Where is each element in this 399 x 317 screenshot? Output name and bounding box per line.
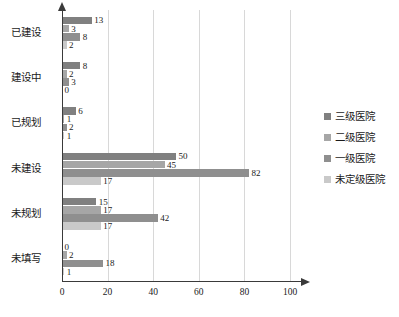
bar-value-label: 82 bbox=[249, 168, 261, 177]
category-label: 未填写 bbox=[0, 253, 54, 264]
bar-row: 1 bbox=[62, 268, 290, 276]
bar-row: 6 bbox=[62, 107, 290, 115]
bar-row: 3 bbox=[62, 25, 290, 33]
bar bbox=[62, 17, 92, 25]
bar-value-label: 3 bbox=[69, 78, 76, 87]
y-axis-line bbox=[62, 10, 63, 282]
legend-swatch-icon bbox=[324, 113, 331, 120]
bar-group: 13382 bbox=[62, 17, 290, 50]
chart-legend: 三级医院二级医院一级医院未定级医院 bbox=[324, 106, 385, 190]
bar-value-label: 6 bbox=[76, 107, 83, 116]
bar-row: 1 bbox=[62, 115, 290, 123]
y-axis-arrowhead bbox=[58, 2, 66, 11]
bar-value-label: 45 bbox=[165, 160, 177, 169]
bar-value-label: 2 bbox=[67, 251, 74, 260]
bar-value-label: 3 bbox=[69, 24, 76, 33]
legend-label: 未定级医院 bbox=[335, 174, 385, 185]
bar bbox=[62, 206, 101, 214]
bar-group: 15174217 bbox=[62, 198, 290, 231]
gridline bbox=[290, 10, 291, 282]
bar-row: 15 bbox=[62, 198, 290, 206]
bar-row: 2 bbox=[62, 251, 290, 259]
bar-row: 17 bbox=[62, 206, 290, 214]
bar-group: 8230 bbox=[62, 62, 290, 95]
bar-row: 17 bbox=[62, 222, 290, 230]
bar-row: 0 bbox=[62, 243, 290, 251]
legend-swatch-icon bbox=[324, 155, 331, 162]
bar-row: 0 bbox=[62, 86, 290, 94]
x-axis-arrowhead bbox=[301, 278, 310, 286]
bar-value-label: 13 bbox=[92, 16, 104, 25]
legend-item[interactable]: 未定级医院 bbox=[324, 169, 385, 190]
legend-label: 三级医院 bbox=[335, 111, 375, 122]
plot-area: 1338282306121504582171517421702181 bbox=[62, 10, 290, 282]
legend-label: 二级医院 bbox=[335, 132, 375, 143]
bar-value-label: 17 bbox=[101, 222, 113, 231]
legend-label: 一级医院 bbox=[335, 153, 375, 164]
x-axis-tick-label: 20 bbox=[103, 287, 113, 297]
x-axis-tick-label: 60 bbox=[194, 287, 204, 297]
bar-value-label: 42 bbox=[158, 214, 170, 223]
category-label: 已规划 bbox=[0, 117, 54, 128]
bar-value-label: 1 bbox=[64, 131, 71, 140]
bar-group: 50458217 bbox=[62, 153, 290, 186]
bar-value-label: 8 bbox=[80, 61, 87, 70]
legend-swatch-icon bbox=[324, 134, 331, 141]
bar bbox=[62, 177, 101, 185]
x-axis-line bbox=[62, 281, 302, 282]
category-label: 未建设 bbox=[0, 163, 54, 174]
bar-row: 2 bbox=[62, 70, 290, 78]
bar-value-label: 8 bbox=[80, 32, 87, 41]
legend-item[interactable]: 三级医院 bbox=[324, 106, 385, 127]
bar-row: 13 bbox=[62, 17, 290, 25]
gridline bbox=[108, 10, 109, 282]
bar bbox=[62, 198, 96, 206]
gridline bbox=[199, 10, 200, 282]
category-label: 未规划 bbox=[0, 208, 54, 219]
category-label: 已建设 bbox=[0, 27, 54, 38]
x-axis-tick-label: 0 bbox=[60, 287, 65, 297]
x-axis-tick-label: 40 bbox=[148, 287, 158, 297]
bar-row: 18 bbox=[62, 260, 290, 268]
bar bbox=[62, 169, 249, 177]
bar-value-label: 50 bbox=[176, 152, 188, 161]
gridline bbox=[244, 10, 245, 282]
bar-value-label: 1 bbox=[64, 267, 71, 276]
bar-row: 8 bbox=[62, 33, 290, 41]
bar-value-label: 2 bbox=[67, 40, 74, 49]
bar-row: 2 bbox=[62, 124, 290, 132]
bar-row: 42 bbox=[62, 214, 290, 222]
bar bbox=[62, 161, 165, 169]
bar bbox=[62, 153, 176, 161]
legend-item[interactable]: 一级医院 bbox=[324, 148, 385, 169]
bar-value-label: 18 bbox=[103, 259, 115, 268]
bar-value-label: 17 bbox=[101, 205, 113, 214]
bar-group: 02181 bbox=[62, 243, 290, 276]
bar bbox=[62, 222, 101, 230]
bar-group: 6121 bbox=[62, 107, 290, 140]
bar-row: 17 bbox=[62, 177, 290, 185]
bar-row: 1 bbox=[62, 132, 290, 140]
x-axis-tick-label: 100 bbox=[283, 287, 297, 297]
bar-row: 3 bbox=[62, 78, 290, 86]
x-axis-tick-label: 80 bbox=[240, 287, 250, 297]
category-label: 建设中 bbox=[0, 72, 54, 83]
gridline bbox=[153, 10, 154, 282]
bar-row: 2 bbox=[62, 41, 290, 49]
bar-value-label: 17 bbox=[101, 176, 113, 185]
legend-item[interactable]: 二级医院 bbox=[324, 127, 385, 148]
legend-swatch-icon bbox=[324, 176, 331, 183]
bar-row: 82 bbox=[62, 169, 290, 177]
grouped-bar-chart: 1338282306121504582171517421702181 三级医院二… bbox=[0, 0, 399, 317]
bar-row: 8 bbox=[62, 62, 290, 70]
